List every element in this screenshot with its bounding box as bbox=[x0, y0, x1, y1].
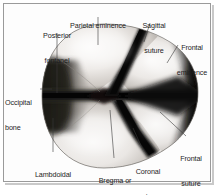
label-line: Frontal bbox=[172, 155, 210, 163]
label-frontal-eminence: Frontal eminence bbox=[170, 28, 214, 94]
label-parietal-eminence: Parietal eminence bbox=[60, 6, 136, 47]
label-lambdoidal-suture: Lambdoidal suture bbox=[26, 155, 80, 195]
label-line: Parietal eminence bbox=[60, 22, 136, 30]
label-frontal-suture: Frontal suture bbox=[172, 139, 210, 195]
label-sagittal-suture: Sagittal suture bbox=[136, 6, 172, 72]
label-occipital-bone: Occipital bone bbox=[5, 83, 47, 149]
label-line: Occipital bbox=[5, 99, 47, 107]
label-line: suture bbox=[136, 47, 172, 55]
label-line: fontanel bbox=[30, 57, 84, 65]
highlight-frontal-lower bbox=[142, 114, 178, 138]
label-line: Frontal bbox=[170, 44, 214, 52]
figure-container: Posterior fontanel Parietal eminence Sag… bbox=[0, 0, 217, 195]
label-line: suture bbox=[129, 193, 167, 195]
label-line: suture bbox=[172, 180, 210, 188]
label-line: eminence bbox=[170, 69, 214, 77]
label-line: Coronal bbox=[129, 168, 167, 176]
label-line: bone bbox=[5, 124, 47, 132]
label-line: Lambdoidal bbox=[26, 171, 80, 179]
highlight-parietal-lower bbox=[64, 116, 128, 152]
label-line: Sagittal bbox=[136, 22, 172, 30]
label-coronal-suture: Coronal suture bbox=[129, 152, 167, 195]
